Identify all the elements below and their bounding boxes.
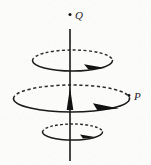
lower-loop-back-dashed (43, 124, 103, 132)
point-q: Q (69, 9, 84, 21)
point-p-dot-icon (128, 94, 131, 97)
field-loop-diagram: Q P (0, 0, 151, 165)
current-wire-axis (67, 29, 74, 161)
middle-loop-back-dashed (14, 85, 130, 98)
lower-loop-front-solid (43, 132, 103, 140)
upper-loop-back-dashed (33, 50, 113, 61)
physics-figure: Q P (0, 0, 151, 165)
point-q-label: Q (75, 9, 83, 21)
upper-loop-front-solid (33, 61, 113, 72)
point-q-dot-icon (69, 13, 72, 16)
point-p-label: P (133, 90, 141, 102)
upper-loop (33, 50, 113, 71)
lower-loop (43, 124, 103, 140)
current-direction-arrow-icon (67, 88, 74, 111)
